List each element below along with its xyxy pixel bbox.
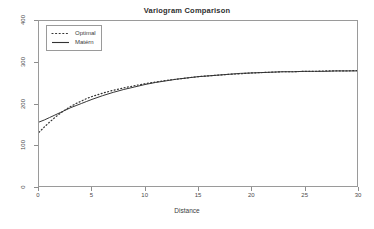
x-tick-label: 30 xyxy=(347,192,369,198)
x-tick-label: 25 xyxy=(294,192,316,198)
legend-label-matern: Matérn xyxy=(75,38,94,47)
x-tick-mark xyxy=(358,187,359,191)
x-tick-mark xyxy=(38,187,39,191)
x-tick-label: 0 xyxy=(27,192,49,198)
x-tick-label: 20 xyxy=(240,192,262,198)
y-tick-label: 400 xyxy=(18,11,28,29)
legend-item-matern: Matérn xyxy=(51,38,96,47)
dotted-line-icon xyxy=(51,29,70,38)
x-tick-mark xyxy=(91,187,92,191)
chart-legend: Optimal Matérn xyxy=(46,25,102,51)
y-tick-label: 0 xyxy=(18,178,28,196)
y-tick-mark xyxy=(34,104,38,105)
chart-title: Variogram Comparison xyxy=(0,6,374,15)
y-tick-label: 300 xyxy=(18,53,28,71)
y-tick-mark xyxy=(34,187,38,188)
x-tick-mark xyxy=(145,187,146,191)
x-tick-label: 5 xyxy=(80,192,102,198)
series-line-matern xyxy=(39,71,357,122)
legend-item-optimal: Optimal xyxy=(51,29,96,38)
x-tick-mark xyxy=(305,187,306,191)
solid-line-icon xyxy=(51,38,70,47)
chart-figure: Variogram Comparison 0510152025300100200… xyxy=(0,0,374,229)
x-tick-mark xyxy=(198,187,199,191)
x-tick-mark xyxy=(251,187,252,191)
y-tick-label: 100 xyxy=(18,136,28,154)
x-tick-label: 10 xyxy=(134,192,156,198)
x-tick-label: 15 xyxy=(187,192,209,198)
legend-label-optimal: Optimal xyxy=(75,29,96,38)
y-tick-mark xyxy=(34,145,38,146)
x-axis-label: Distance xyxy=(0,207,374,214)
y-tick-mark xyxy=(34,20,38,21)
y-tick-label: 200 xyxy=(18,95,28,113)
y-tick-mark xyxy=(34,62,38,63)
